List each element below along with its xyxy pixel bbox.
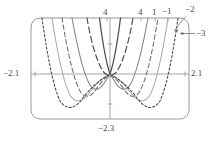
curve-label-4-left: 4 [103, 8, 108, 17]
axis-label-right: 2.1 [191, 69, 202, 78]
annotation-arrowhead-minus3 [180, 32, 184, 35]
curve-label-minus3: −3 [196, 29, 206, 38]
axis-label-left: −2.1 [3, 69, 19, 78]
curve-family-plot [0, 0, 214, 141]
curve-label-minus2: −2 [185, 5, 195, 14]
annotation-arrow-minus2 [175, 17, 187, 31]
curve-label-4-right: 4 [138, 8, 143, 17]
axis-label-bottom: −2.3 [98, 124, 114, 133]
figure-canvas: 4 4 1 −1 −2 −3 −2.1 2.1 −2.3 [0, 0, 214, 141]
curve-label-1: 1 [152, 8, 157, 17]
curve-label-minus1: −1 [162, 7, 172, 16]
